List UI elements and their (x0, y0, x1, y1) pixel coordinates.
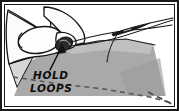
caption-line-2: LOOPS (30, 82, 72, 94)
caption-line-1: HOLD (33, 69, 69, 81)
illustration-svg: HOLD LOOPS (0, 0, 179, 111)
illustration-frame: HOLD LOOPS (0, 0, 179, 111)
